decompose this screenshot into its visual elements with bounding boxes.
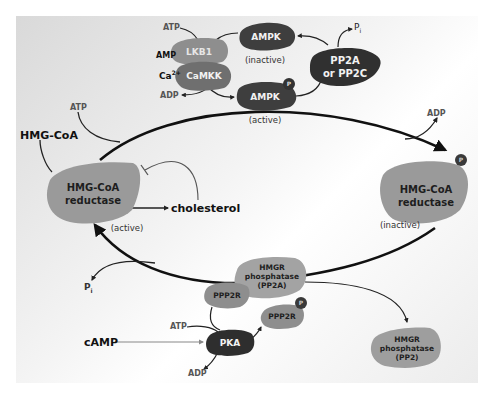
hmgr-pp2-line3: (PP2): [395, 354, 418, 363]
cycle-atp-label: ATP: [70, 104, 87, 112]
ampk-adp-label: ADP: [160, 92, 179, 100]
ampk-active-state: (active): [249, 116, 281, 125]
ampk-active-label: AMPK: [250, 93, 280, 102]
hmg-coa-substrate-label: HMG-CoA: [20, 130, 78, 141]
pka-adp-label: ADP: [188, 370, 207, 378]
ampk-inactive-label: AMPK: [251, 33, 281, 42]
reductase-active-line2: reductase: [65, 195, 121, 206]
camp-label: cAMP: [84, 337, 118, 348]
reductase-inactive-line2: reductase: [398, 197, 454, 208]
ppp2r-bound-label: PPP2R: [213, 292, 240, 301]
calcium-label: Ca2+: [159, 70, 181, 81]
reductase-active-state: (active): [111, 224, 143, 233]
pp2a-label: PP2A: [330, 56, 359, 66]
hmgr-pp2a-line3: (PP2A): [258, 282, 287, 291]
reductase-active-line1: HMG-CoA: [67, 182, 120, 193]
lkb1-label: LKB1: [186, 48, 212, 57]
pka-label: PKA: [220, 339, 241, 348]
cycle-adp-label: ADP: [427, 110, 446, 118]
reductase-phospho-label: P: [459, 157, 463, 163]
reductase-inactive-state: (inactive): [380, 221, 420, 230]
amp-label: AMP: [156, 52, 176, 60]
pp2c-label: or PP2C: [323, 69, 367, 79]
ppp2r-phospho-p: P: [299, 300, 303, 306]
pka-atp-label: ATP: [170, 323, 187, 331]
ampk-inactive-state: (inactive): [245, 56, 285, 65]
ampk-atp-label: ATP: [163, 24, 180, 32]
reductase-inactive-line1: HMG-CoA: [400, 184, 453, 195]
camkk-label: CaMKK: [186, 72, 222, 81]
ppp2r-phospho-label: PPP2R: [268, 313, 295, 322]
cholesterol-label: cholesterol: [171, 203, 240, 214]
cycle-pi-label: Pi: [84, 283, 93, 294]
ampk-pi-label: Pi: [354, 23, 361, 34]
reductase-active-shape: [47, 162, 140, 223]
ampk-phospho-label: P: [287, 81, 291, 87]
